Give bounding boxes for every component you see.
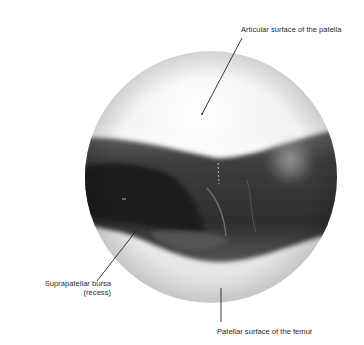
label-bursa-line2: (recess) bbox=[20, 288, 111, 297]
label-bursa-line1: Suprapatellar bursa bbox=[20, 279, 111, 288]
label-patella-articular-surface: Articular surface of the patella bbox=[241, 25, 341, 34]
scope-field bbox=[80, 50, 345, 310]
arthroscopy-figure: Articular surface of the patella Suprapa… bbox=[0, 0, 364, 345]
label-suprapatellar-bursa: Suprapatellar bursa (recess) bbox=[20, 279, 111, 297]
label-femur-patellar-surface: Patellar surface of the femur bbox=[217, 327, 312, 336]
